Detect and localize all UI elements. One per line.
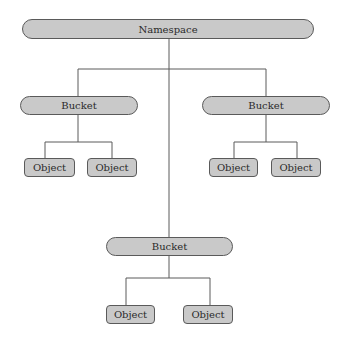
- object-node: Object: [106, 305, 155, 324]
- namespace-node: Namespace: [22, 19, 314, 39]
- object-node: Object: [24, 158, 75, 177]
- object-node: Object: [183, 305, 233, 324]
- bucket-node-right: Bucket: [202, 96, 330, 115]
- object-node: Object: [209, 158, 258, 177]
- bucket-node-bottom: Bucket: [106, 237, 233, 256]
- bucket-node-left: Bucket: [20, 96, 138, 115]
- object-node: Object: [271, 158, 321, 177]
- object-node: Object: [87, 158, 137, 177]
